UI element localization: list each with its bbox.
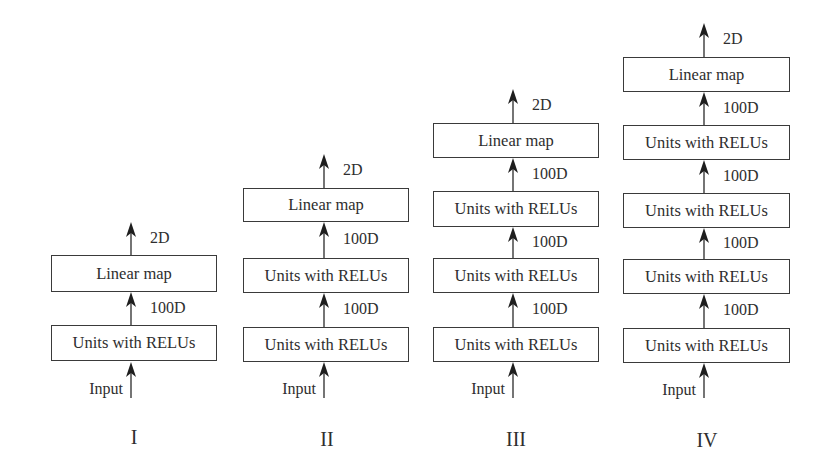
linear-map-box: Linear map [433, 123, 599, 158]
architecture-diagram: Units with RELUsLinear map100D2DInputIUn… [0, 0, 835, 476]
units-with-relus-box: Units with RELUs [623, 328, 790, 363]
dimension-label: 100D [723, 168, 759, 184]
up-arrow-icon [508, 227, 518, 258]
column-label-iv: IV [696, 430, 717, 450]
up-arrow-icon [699, 23, 709, 57]
units-with-relus-box: Units with RELUs [433, 258, 599, 293]
linear-map-box: Linear map [243, 188, 409, 222]
dimension-label: 2D [343, 162, 363, 178]
input-label: Input [282, 381, 316, 397]
up-arrow-icon [508, 89, 518, 123]
linear-map-label: Linear map [478, 131, 554, 151]
up-arrow-icon [508, 293, 518, 327]
units-with-relus-box: Units with RELUs [243, 327, 409, 362]
column-label-i: I [131, 427, 138, 447]
linear-map-box: Linear map [623, 57, 790, 92]
linear-map-label: Linear map [288, 195, 364, 215]
dimension-label: 2D [150, 230, 170, 246]
units-with-relus-box: Units with RELUs [623, 193, 790, 228]
units-with-relus-label: Units with RELUs [455, 266, 578, 286]
up-arrow-icon [699, 294, 709, 328]
column-label-ii: II [320, 429, 333, 449]
units-with-relus-box: Units with RELUs [623, 259, 790, 294]
up-arrow-icon [319, 222, 329, 258]
units-with-relus-box: Units with RELUs [433, 327, 599, 362]
linear-map-label: Linear map [669, 65, 745, 85]
input-arrow-icon [508, 362, 518, 398]
units-with-relus-box: Units with RELUs [433, 191, 599, 227]
units-with-relus-label: Units with RELUs [265, 335, 388, 355]
dimension-label: 100D [532, 166, 568, 182]
linear-map-label: Linear map [96, 264, 172, 284]
units-with-relus-label: Units with RELUs [645, 201, 768, 221]
dimension-label: 100D [532, 301, 568, 317]
input-arrow-icon [699, 363, 709, 398]
dimension-label: 100D [343, 231, 379, 247]
dimension-label: 100D [723, 235, 759, 251]
input-label: Input [662, 382, 696, 398]
units-with-relus-box: Units with RELUs [243, 258, 409, 293]
input-label: Input [471, 381, 505, 397]
up-arrow-icon [126, 222, 136, 255]
units-with-relus-label: Units with RELUs [455, 335, 578, 355]
dimension-label: 100D [723, 100, 759, 116]
units-with-relus-box: Units with RELUs [623, 125, 790, 160]
up-arrow-icon [319, 154, 329, 188]
up-arrow-icon [319, 293, 329, 327]
dimension-label: 2D [723, 31, 743, 47]
input-arrow-icon [319, 362, 329, 398]
dimension-label: 100D [343, 301, 379, 317]
up-arrow-icon [126, 292, 136, 325]
dimension-label: 100D [723, 302, 759, 318]
up-arrow-icon [699, 160, 709, 193]
units-with-relus-label: Units with RELUs [645, 336, 768, 356]
column-label-iii: III [506, 429, 526, 449]
up-arrow-icon [699, 228, 709, 259]
input-arrow-icon [126, 362, 136, 398]
units-with-relus-box: Units with RELUs [51, 325, 217, 361]
units-with-relus-label: Units with RELUs [73, 333, 196, 353]
units-with-relus-label: Units with RELUs [265, 266, 388, 286]
dimension-label: 100D [150, 300, 186, 316]
dimension-label: 2D [532, 97, 552, 113]
up-arrow-icon [508, 158, 518, 191]
units-with-relus-label: Units with RELUs [645, 133, 768, 153]
up-arrow-icon [699, 92, 709, 125]
linear-map-box: Linear map [51, 255, 217, 292]
input-label: Input [89, 381, 123, 397]
units-with-relus-label: Units with RELUs [455, 199, 578, 219]
units-with-relus-label: Units with RELUs [645, 267, 768, 287]
dimension-label: 100D [532, 234, 568, 250]
